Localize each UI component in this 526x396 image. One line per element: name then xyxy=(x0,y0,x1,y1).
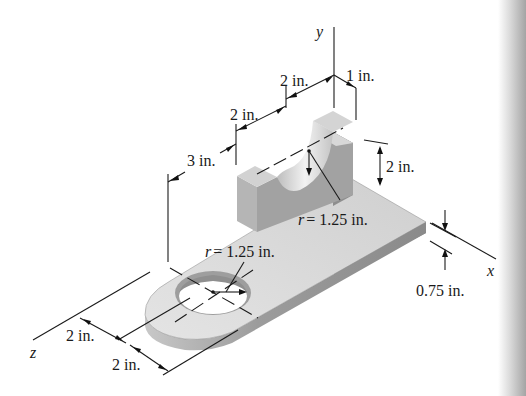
dim-height-2in: 2 in. xyxy=(386,158,414,175)
z-axis-label: z xyxy=(29,344,37,361)
slot-radius-label: r= 1.25 in. xyxy=(298,211,368,228)
dim-bottom-2in-a: 2 in. xyxy=(66,327,94,344)
dim-bottom-2in-b: 2 in. xyxy=(112,356,140,373)
dim-top-2in: 2 in. xyxy=(280,72,308,89)
hole-radius-label: r= 1.25 in. xyxy=(205,243,275,260)
dim-3in: 3 in. xyxy=(187,152,215,169)
part-diagram: y x z 2 in. 1 in. 2 in. 3 in. xyxy=(0,0,526,396)
dim-thickness: 0.75 in. xyxy=(416,282,464,299)
dim-top-1in: 1 in. xyxy=(346,67,374,84)
page-binding-shadow xyxy=(498,0,526,396)
y-axis-label: y xyxy=(314,23,324,41)
x-axis xyxy=(432,223,496,259)
dim-upper-left-2in: 2 in. xyxy=(230,106,258,123)
x-axis-label: x xyxy=(486,262,494,279)
